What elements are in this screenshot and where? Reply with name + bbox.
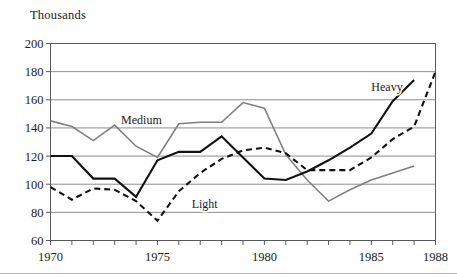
x-tick-marks-group (51, 241, 436, 246)
x-tick-label-1970: 1970 (38, 250, 63, 264)
x-tick-label-1988: 1988 (423, 250, 448, 264)
plot-border (51, 44, 436, 241)
series-label-heavy: Heavy (371, 80, 402, 94)
x-tick-label-1975: 1975 (145, 250, 170, 264)
y-tick-label-200: 200 (25, 37, 44, 51)
y-tick-labels-group: 2001801601401201008060 (25, 37, 51, 248)
bottom-divider (0, 273, 457, 274)
series-label-light: Light (192, 197, 219, 211)
plot-frame (51, 44, 436, 241)
y-tick-label-140: 140 (25, 121, 44, 135)
y-tick-label-180: 180 (25, 65, 44, 79)
y-tick-label-60: 60 (31, 234, 44, 248)
line-chart-plot: 2001801601401201008060 19701975198019851… (0, 0, 457, 277)
x-tick-label-1980: 1980 (252, 250, 277, 264)
chart-title: Thousands (30, 8, 86, 23)
x-tick-label-1985: 1985 (359, 250, 384, 264)
series-line-medium (51, 103, 415, 202)
series-line-heavy (51, 80, 415, 197)
x-tick-labels-group: 19701975198019851988 (38, 250, 448, 264)
series-label-medium: Medium (121, 113, 162, 127)
y-tick-label-80: 80 (31, 206, 44, 220)
y-tick-label-100: 100 (25, 178, 44, 192)
y-tick-label-160: 160 (25, 93, 44, 107)
y-tick-label-120: 120 (25, 150, 44, 164)
chart-figure: Thousands 2001801601401201008060 1970197… (0, 0, 457, 277)
